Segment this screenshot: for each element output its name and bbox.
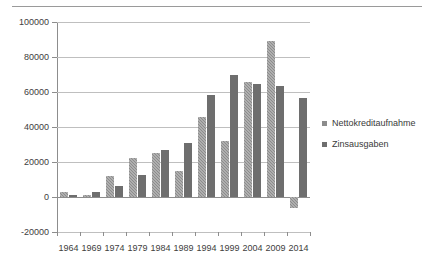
bar [244, 82, 252, 197]
gridline [57, 197, 310, 198]
x-axis-tick [287, 232, 288, 236]
bar [198, 117, 206, 198]
bar [299, 98, 307, 197]
x-axis-tick [126, 232, 127, 236]
x-axis-tick [195, 232, 196, 236]
x-axis-tick-label: 1994 [196, 243, 216, 253]
legend-swatch-icon [322, 142, 327, 147]
bar [290, 197, 298, 208]
y-axis-tick-label: 0 [44, 193, 49, 202]
y-axis-tick-label: 20000 [24, 158, 49, 167]
plot-area: -20000020000400006000080000100000 [57, 22, 310, 232]
gridline [57, 232, 310, 233]
legend-item-label: Nettokreditaufnahme [332, 118, 416, 128]
y-axis-tick-label: 60000 [24, 88, 49, 97]
y-axis-tick [52, 127, 57, 128]
legend-item-label: Zinsausgaben [332, 139, 389, 149]
x-axis-tick [57, 232, 58, 236]
legend-item[interactable]: Zinsausgaben [322, 139, 434, 149]
x-axis-tick-label: 1979 [127, 243, 147, 253]
chart-figure: -20000020000400006000080000100000 196419… [0, 0, 434, 267]
x-axis-tick-label: 2004 [242, 243, 262, 253]
bar [152, 153, 160, 197]
x-axis-tick [172, 232, 173, 236]
x-axis-tick-label: 1974 [104, 243, 124, 253]
y-axis-tick-label: 40000 [24, 123, 49, 132]
x-axis-tick [310, 232, 311, 236]
x-axis-tick-label: 1984 [150, 243, 170, 253]
x-axis-tick [241, 232, 242, 236]
x-axis-tick-label: 1964 [58, 243, 78, 253]
x-axis-tick-label: 1969 [81, 243, 101, 253]
bar [267, 41, 275, 197]
x-axis-tick [80, 232, 81, 236]
legend-swatch-icon [322, 121, 327, 126]
bar [184, 143, 192, 197]
bar [83, 195, 91, 197]
header-divider [12, 6, 422, 7]
x-axis-tick [218, 232, 219, 236]
y-axis-tick-label: -20000 [21, 228, 49, 237]
legend-item[interactable]: Nettokreditaufnahme [322, 118, 434, 128]
y-axis-tick [52, 22, 57, 23]
bar [230, 75, 238, 197]
bar [221, 141, 229, 197]
bar [207, 95, 215, 197]
x-axis-tick [149, 232, 150, 236]
x-axis-tick-label: 2009 [265, 243, 285, 253]
x-axis-tick-label: 1999 [219, 243, 239, 253]
bar [161, 150, 169, 197]
bar [129, 158, 137, 197]
y-axis-tick [52, 197, 57, 198]
bar [92, 192, 100, 197]
bar [175, 171, 183, 197]
bar [253, 84, 261, 197]
bar [60, 192, 68, 197]
gridline [57, 22, 310, 23]
bar [115, 186, 123, 197]
bar [106, 176, 114, 197]
x-axis-tick [103, 232, 104, 236]
chart-legend: NettokreditaufnahmeZinsausgaben [322, 118, 434, 160]
bar [138, 175, 146, 197]
y-axis-tick [52, 162, 57, 163]
y-axis-tick-label: 100000 [19, 18, 49, 27]
y-axis-tick [52, 57, 57, 58]
y-axis-tick [52, 92, 57, 93]
x-axis-tick-label: 1989 [173, 243, 193, 253]
bar [69, 195, 77, 197]
y-axis-tick-label: 80000 [24, 53, 49, 62]
x-axis-tick-label: 2014 [288, 243, 308, 253]
bar [276, 86, 284, 197]
x-axis-tick [264, 232, 265, 236]
